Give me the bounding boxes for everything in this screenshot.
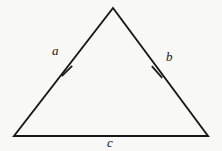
triangle-diagram	[0, 0, 222, 151]
side-label-c: c	[107, 136, 113, 149]
triangle-outline	[14, 8, 208, 136]
side-label-b: b	[166, 50, 173, 63]
side-label-a: a	[52, 44, 59, 57]
geometry-figure: a b c	[0, 0, 222, 151]
